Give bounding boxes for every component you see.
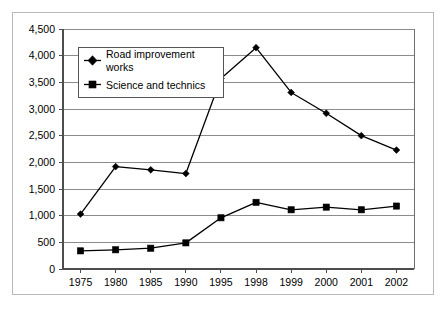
datapoint-2-1995 — [218, 215, 224, 221]
xtick-label-1999: 1999 — [279, 276, 303, 288]
ytick-label-1000: 1,000 — [29, 209, 55, 221]
legend-label-series-1-line2: works — [105, 61, 133, 73]
chart-figure: 0 500 1,000 1,500 2,000 2,500 3,000 3,50… — [0, 0, 448, 309]
chart-canvas: 0 500 1,000 1,500 2,000 2,500 3,000 3,50… — [0, 0, 448, 309]
xtick-label-2002: 2002 — [385, 276, 409, 288]
datapoint-2-1990 — [183, 240, 189, 246]
x-tickmarks — [81, 269, 397, 273]
xtick-label-1995: 1995 — [209, 276, 233, 288]
xtick-label-1985: 1985 — [139, 276, 163, 288]
datapoint-1-1985 — [147, 166, 154, 173]
ytick-label-4000: 4,000 — [29, 49, 55, 61]
datapoint-1-2002 — [393, 147, 400, 154]
ytick-label-4500: 4,500 — [29, 23, 55, 35]
datapoint-2-1985 — [148, 245, 154, 251]
ytick-label-3500: 3,500 — [29, 76, 55, 88]
datapoint-1-1990 — [182, 170, 189, 177]
y-tickmarks — [59, 29, 63, 269]
datapoint-2-2002 — [393, 203, 399, 209]
ytick-label-0: 0 — [49, 263, 55, 275]
xtick-label-1990: 1990 — [174, 276, 198, 288]
legend-label-series-1-line1: Road improvement — [106, 48, 195, 60]
ytick-label-1500: 1,500 — [29, 183, 55, 195]
xtick-label-2001: 2001 — [350, 276, 374, 288]
datapoint-2-2000 — [323, 204, 329, 210]
chart-legend[interactable]: Road improvement works Science and techn… — [78, 47, 223, 97]
legend-square-icon — [89, 81, 96, 88]
ytick-label-3000: 3,000 — [29, 103, 55, 115]
legend-label-series-2: Science and technics — [106, 79, 205, 91]
y-axis-labels: 0 500 1,000 1,500 2,000 2,500 3,000 3,50… — [29, 23, 55, 275]
datapoint-2-2001 — [358, 207, 364, 213]
line-chart: 0 500 1,000 1,500 2,000 2,500 3,000 3,50… — [0, 0, 448, 309]
datapoint-2-1998 — [253, 199, 259, 205]
series-2 — [77, 199, 399, 254]
datapoint-2-1980 — [113, 247, 119, 253]
ytick-label-2000: 2,000 — [29, 156, 55, 168]
x-axis-labels: 1975 1980 1985 1990 1995 1998 1999 2000 … — [69, 276, 408, 288]
xtick-label-1980: 1980 — [104, 276, 128, 288]
datapoint-2-1975 — [77, 248, 83, 254]
datapoint-1-2000 — [323, 110, 330, 117]
ytick-label-2500: 2,500 — [29, 129, 55, 141]
datapoint-1-2001 — [358, 132, 365, 139]
series-line-2 — [81, 202, 397, 251]
datapoint-2-1999 — [288, 207, 294, 213]
xtick-label-1975: 1975 — [69, 276, 93, 288]
xtick-label-2000: 2000 — [315, 276, 339, 288]
ytick-label-500: 500 — [37, 236, 55, 248]
xtick-label-1998: 1998 — [244, 276, 268, 288]
